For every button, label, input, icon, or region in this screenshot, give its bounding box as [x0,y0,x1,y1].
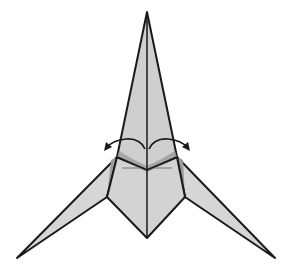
left-wing [17,157,117,258]
origami-diagram: Origami folding step [0,0,293,274]
origami-figure [0,0,293,274]
right-wing [177,157,275,258]
